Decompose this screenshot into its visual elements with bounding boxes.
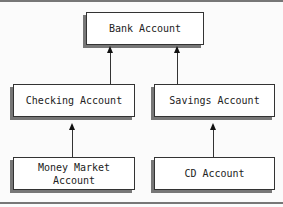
- arrowhead-icon: [174, 46, 180, 53]
- node-cd-account: CD Account: [154, 157, 275, 190]
- node-label: Bank Account: [109, 22, 181, 35]
- bottom-rule: [0, 202, 283, 204]
- node-money-market-account: Money Market Account: [13, 157, 135, 190]
- edge-moneymarket-to-checking: [72, 130, 73, 157]
- arrowhead-icon: [210, 123, 216, 130]
- node-bank-account: Bank Account: [86, 12, 204, 45]
- node-checking-account: Checking Account: [13, 84, 135, 117]
- node-label: Savings Account: [169, 94, 259, 107]
- node-label-line2: Account: [53, 174, 95, 187]
- edge-cd-to-savings: [213, 130, 214, 157]
- arrowhead-icon: [69, 123, 75, 130]
- edge-checking-to-bank: [110, 52, 111, 84]
- edge-savings-to-bank: [177, 52, 178, 84]
- node-label: Checking Account: [26, 94, 122, 107]
- node-label: CD Account: [184, 167, 244, 180]
- top-rule: [0, 0, 283, 2]
- node-savings-account: Savings Account: [154, 84, 275, 117]
- node-label-line1: Money Market: [38, 161, 110, 174]
- arrowhead-icon: [107, 46, 113, 53]
